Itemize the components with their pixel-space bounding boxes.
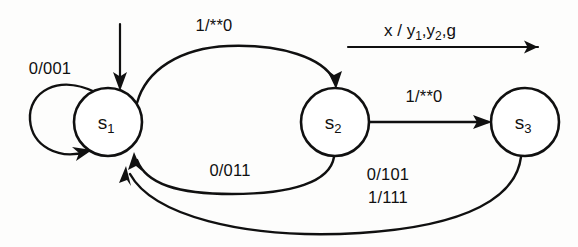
arc-s3-s1-path xyxy=(130,157,521,234)
legend-text: x / y1,y2,g xyxy=(384,21,456,43)
state-node-s3[interactable]: s3 xyxy=(491,88,559,156)
arc-s1-s2-path xyxy=(137,46,334,103)
legend-output-3: g xyxy=(447,21,456,40)
transition-s2-s1: 0/011 xyxy=(128,152,334,194)
state-label-s3-text: s xyxy=(515,112,525,133)
arc-s2-s1-arrowhead-icon xyxy=(128,152,142,171)
state-label-s2-subscript: 2 xyxy=(334,121,341,136)
reset-arrow xyxy=(113,24,127,91)
legend-separator: / xyxy=(393,21,407,40)
state-node-s1[interactable]: s1 xyxy=(74,88,142,156)
state-label-s1-subscript: 1 xyxy=(107,121,114,136)
transition-s1-s2: 1/**0 xyxy=(137,16,342,103)
transition-label-s2-s1: 0/011 xyxy=(209,161,250,179)
notation-legend: x / y1,y2,g xyxy=(348,21,538,53)
transition-s3-s1: 0/101 1/111 xyxy=(119,157,521,234)
fsm-canvas: x / y1,y2,g 0/001 1/**0 0/011 xyxy=(0,0,578,247)
state-label-s3-subscript: 3 xyxy=(524,121,531,136)
transition-label-s2-s3: 1/**0 xyxy=(406,87,443,105)
arc-s1-s2-arrowhead-icon xyxy=(327,70,342,89)
transition-label-s3-s1-a: 0/101 xyxy=(367,165,409,183)
state-node-s2[interactable]: s2 xyxy=(301,88,369,156)
transition-s2-s3: 1/**0 xyxy=(369,87,492,129)
state-machine-diagram: x / y1,y2,g 0/001 1/**0 0/011 xyxy=(0,0,578,247)
state-label-s2-text: s xyxy=(325,112,335,133)
transition-label-s1-s2: 1/**0 xyxy=(196,16,233,34)
transition-label-s1-self: 0/001 xyxy=(29,59,71,77)
transition-label-s3-s1-b: 1/111 xyxy=(368,188,408,206)
state-label-s1-text: s xyxy=(98,112,108,133)
